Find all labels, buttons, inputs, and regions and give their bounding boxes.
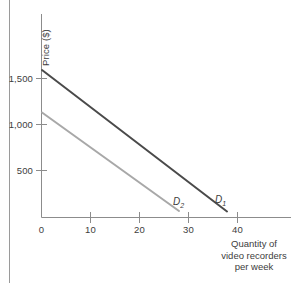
demand-curve-d1 [42, 70, 227, 212]
x-tick-label-10: 10 [77, 224, 104, 235]
x-tick-label-20: 20 [126, 224, 153, 235]
x-axis-caption-line-2: video recorders [206, 250, 302, 262]
curve-label-d2: D2 [173, 196, 184, 209]
y-axis-title: Price ($) [40, 29, 51, 66]
x-axis-caption-line-1: Quantity of [206, 238, 302, 250]
curve-label-d1: D1 [215, 194, 226, 207]
y-tick-label-1500: 1,500 [0, 73, 33, 84]
x-tick-label-0: 0 [28, 224, 55, 235]
x-axis-caption-line-3: per week [206, 261, 302, 273]
x-tick-label-40: 40 [224, 224, 251, 235]
curve-label-d1-sub: 1 [222, 200, 226, 207]
y-tick-label-1000: 1,000 [0, 119, 33, 130]
x-axis-caption: Quantity of video recorders per week [206, 238, 302, 273]
y-tick-label-500: 500 [0, 165, 33, 176]
curve-label-d2-sub: 2 [180, 202, 184, 209]
demand-curve-d2 [42, 113, 179, 212]
demand-curve-figure: Price ($) 1,500 1,000 500 0 10 20 30 40 … [0, 0, 308, 283]
x-tick-label-30: 30 [175, 224, 202, 235]
